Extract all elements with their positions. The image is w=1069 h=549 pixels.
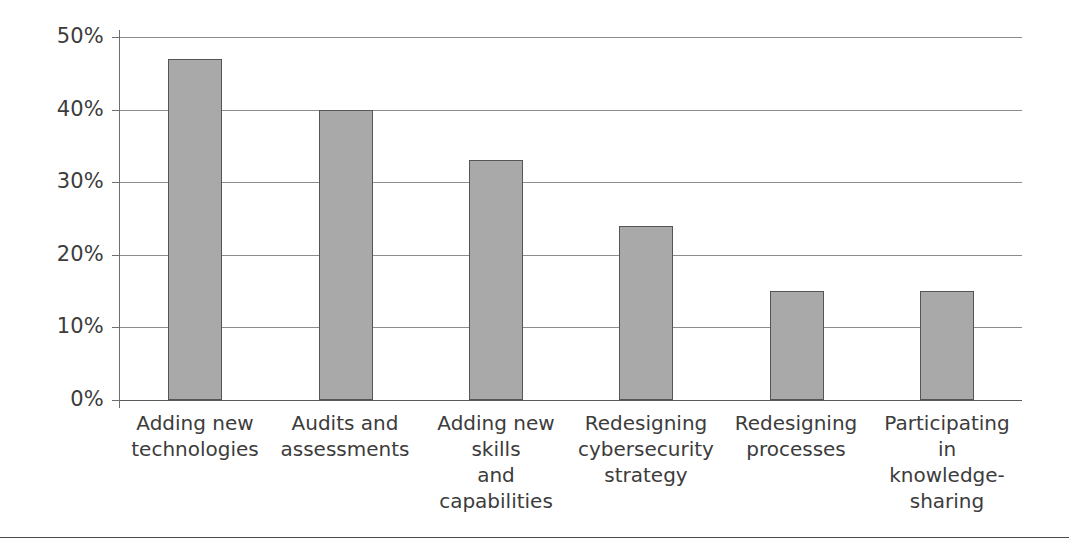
bar [319, 110, 373, 400]
y-axis-tick-mark [112, 37, 120, 38]
gridline [120, 37, 1022, 38]
bar [619, 226, 673, 400]
y-axis-tick-mark [112, 255, 120, 256]
gridline [120, 327, 1022, 328]
bar [770, 291, 824, 400]
bar [920, 291, 974, 400]
x-axis-category-label: Audits and assessments [270, 410, 420, 462]
gridline [120, 400, 1022, 401]
bar [168, 59, 222, 400]
y-axis-tick-mark [112, 327, 120, 328]
y-axis-tick-mark [112, 110, 120, 111]
y-axis-tick-label: 10% [0, 316, 104, 337]
gridline [120, 110, 1022, 111]
gridline [120, 182, 1022, 183]
y-axis-tick-label: 30% [0, 171, 104, 192]
bottom-divider [0, 537, 1069, 538]
y-axis-tick-mark [112, 400, 120, 401]
y-axis-line [119, 30, 120, 408]
y-axis-tick-label: 20% [0, 244, 104, 265]
bar-chart: 0%10%20%30%40%50% Adding new technologie… [0, 0, 1069, 549]
y-axis-tick-label: 50% [0, 26, 104, 47]
gridline [120, 255, 1022, 256]
x-axis-category-label: Adding new technologies [120, 410, 270, 462]
y-axis-tick-label: 0% [0, 389, 104, 410]
y-axis-tick-mark [112, 182, 120, 183]
x-axis-category-label: Redesigning cybersecurity strategy [571, 410, 721, 488]
x-axis-category-label: Participating in knowledge- sharing [872, 410, 1022, 514]
bar [469, 160, 523, 400]
x-axis-category-label: Redesigning processes [721, 410, 871, 462]
y-axis-tick-label: 40% [0, 99, 104, 120]
x-axis-category-label: Adding new skills and capabilities [421, 410, 571, 514]
